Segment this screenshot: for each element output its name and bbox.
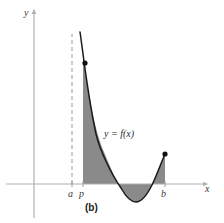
y-axis-label: y (24, 8, 28, 18)
x-axis-label: x (205, 184, 209, 194)
plot-canvas (0, 0, 224, 223)
x-tick-label-p: p (79, 189, 84, 199)
x-tick-label-a: a (68, 189, 73, 199)
right-endpoint-dot (162, 151, 167, 156)
left-endpoint-dot (82, 60, 87, 65)
x-tick-label-b: b (161, 189, 166, 199)
figure-caption: (b) (85, 203, 98, 213)
figure-panel: y x a p b y = f(x) (b) (0, 0, 224, 223)
curve-equation-label: y = f(x) (104, 129, 134, 139)
